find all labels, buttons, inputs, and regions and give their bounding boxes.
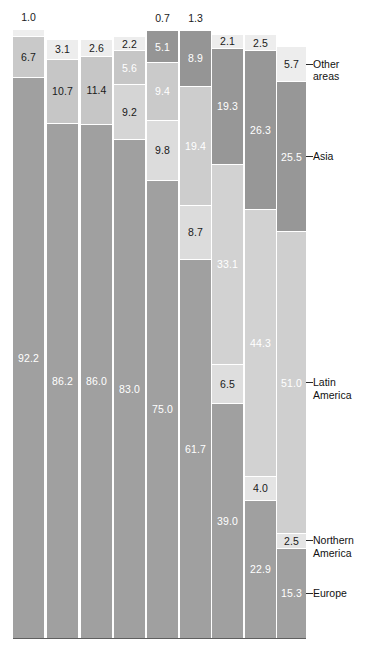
bar-column-8: 2.526.344.34.022.9 (245, 35, 276, 638)
segment-value-label: 83.0 (114, 384, 145, 395)
bar-segment-europe: 92.2 (13, 77, 44, 638)
bar-segment-europe: 15.3 (277, 548, 306, 638)
bar-segment-northern-america: 6.5 (212, 364, 243, 403)
bar-segment-asia: 6.7 (13, 36, 44, 77)
bar-segment-asia: 8.9 (180, 31, 211, 86)
bar-segment-europe: 61.7 (180, 259, 211, 638)
segment-value-label: 5.6 (114, 62, 145, 73)
segment-value-label: 2.5 (277, 535, 306, 546)
bar-segment-northern-america: 8.7 (180, 205, 211, 259)
bar-segment-europe: 86.2 (47, 123, 78, 638)
segment-value-label: 3.1 (47, 44, 78, 55)
legend-leader-line-other-areas (306, 64, 313, 65)
segment-value-label: 25.5 (277, 151, 306, 162)
legend-label-text: Latin (313, 376, 352, 389)
bar-segment-latin-america: 9.2 (114, 84, 145, 139)
legend-label-text: areas (313, 70, 339, 83)
segment-value-label: 8.7 (180, 227, 211, 238)
bar-column-7: 2.119.333.16.539.0 (212, 35, 243, 638)
bar-segment-asia: 25.5 (277, 81, 306, 232)
bar-column-1: 6.792.2 (13, 30, 44, 638)
legend-item-latin-america: LatinAmerica (313, 376, 352, 401)
segment-value-label: 44.3 (245, 337, 276, 348)
bar-segment-other-areas: 3.1 (47, 40, 78, 59)
segment-value-label: 15.3 (277, 588, 306, 599)
legend-leader-line-asia (306, 156, 313, 157)
bar-segment-latin-america: 44.3 (245, 209, 276, 476)
segment-value-label: 39.0 (212, 515, 243, 526)
segment-value-label: 11.4 (81, 85, 112, 96)
segment-value-label: 9.2 (114, 107, 145, 118)
bar-segment-northern-america: 4.0 (245, 476, 276, 500)
bar-segment-other-areas: 2.2 (114, 37, 145, 50)
segment-value-label: 10.7 (47, 86, 78, 97)
bar-segment-latin-america: 19.4 (180, 86, 211, 205)
segment-value-label: 6.5 (212, 378, 243, 389)
legend-label-text: Asia (313, 150, 333, 163)
bar-column-9: 5.725.551.02.515.3 (277, 47, 306, 638)
segment-value-label: 51.0 (277, 377, 306, 388)
legend-leader-line-latin-america (306, 382, 313, 383)
segment-value-label: 2.2 (114, 38, 145, 49)
legend-label-text: Europe (313, 587, 347, 600)
segment-value-label: 33.1 (212, 259, 243, 270)
legend-leader-line-europe (306, 593, 313, 594)
segment-value-label: 4.0 (245, 483, 276, 494)
bar-segment-other-areas: 5.7 (277, 47, 306, 81)
legend-label-text: America (313, 389, 352, 402)
segment-value-label: 2.5 (245, 37, 276, 48)
segment-value-label: 86.2 (47, 375, 78, 386)
bar-segment-other-areas: 2.5 (245, 35, 276, 50)
segment-value-label: 26.3 (245, 124, 276, 135)
bar-top-value-label-1: 1.0 (7, 12, 50, 23)
bar-column-2: 3.110.786.2 (47, 40, 78, 638)
segment-value-label: 9.4 (147, 86, 178, 97)
segment-value-label: 8.9 (180, 53, 211, 64)
bar-segment-asia: 19.3 (212, 48, 243, 164)
bar-segment-europe: 83.0 (114, 139, 145, 638)
bar-column-4: 2.25.69.283.0 (114, 37, 145, 638)
bar-segment-other-areas: 2.1 (212, 35, 243, 48)
bar-segment-latin-america: 51.0 (277, 231, 306, 532)
bar-top-value-label-6: 1.3 (174, 13, 217, 24)
bar-segment-northern-america: 9.8 (147, 120, 178, 180)
legend-label-text: America (313, 547, 354, 560)
segment-value-label: 5.1 (147, 41, 178, 52)
segment-value-label: 75.0 (147, 404, 178, 415)
bar-segment-europe: 39.0 (212, 403, 243, 638)
legend-item-asia: Asia (313, 150, 333, 163)
bar-segment-asia: 5.1 (147, 31, 178, 62)
legend-item-europe: Europe (313, 587, 347, 600)
segment-value-label: 22.9 (245, 564, 276, 575)
segment-value-label: 2.6 (81, 42, 112, 53)
segment-value-label: 86.0 (81, 376, 112, 387)
stacked-bar-chart: 6.792.21.03.110.786.22.611.486.02.25.69.… (0, 0, 365, 650)
bar-segment-asia: 5.6 (114, 50, 145, 84)
bar-segment-other-areas: 2.6 (81, 40, 112, 56)
bar-segment-asia: 10.7 (47, 59, 78, 123)
bar-segment-europe: 75.0 (147, 180, 178, 638)
segment-value-label: 9.8 (147, 145, 178, 156)
bar-column-5: 5.19.49.875.0 (147, 31, 178, 638)
bar-column-3: 2.611.486.0 (81, 40, 112, 638)
bar-segment-asia: 11.4 (81, 56, 112, 124)
legend-item-northern-america: NorthernAmerica (313, 534, 354, 559)
bar-segment-northern-america: 2.5 (277, 533, 306, 548)
bar-segment-europe: 22.9 (245, 500, 276, 638)
segment-value-label: 19.3 (212, 101, 243, 112)
legend-leader-line-northern-america (306, 540, 313, 541)
bar-segment-latin-america: 33.1 (212, 164, 243, 364)
segment-value-label: 6.7 (13, 51, 44, 62)
segment-value-label: 19.4 (180, 140, 211, 151)
legend-label-text: Northern (313, 534, 354, 547)
legend-item-other-areas: Otherareas (313, 58, 339, 83)
segment-value-label: 92.2 (13, 352, 44, 363)
bar-column-6: 8.919.48.761.7 (180, 31, 211, 638)
segment-value-label: 5.7 (277, 58, 306, 69)
bar-segment-latin-america: 9.4 (147, 62, 178, 119)
segment-value-label: 2.1 (212, 36, 243, 47)
bar-segment-europe: 86.0 (81, 124, 112, 638)
bar-segment-asia: 26.3 (245, 50, 276, 209)
segment-value-label: 61.7 (180, 443, 211, 454)
legend-label-text: Other (313, 58, 339, 71)
